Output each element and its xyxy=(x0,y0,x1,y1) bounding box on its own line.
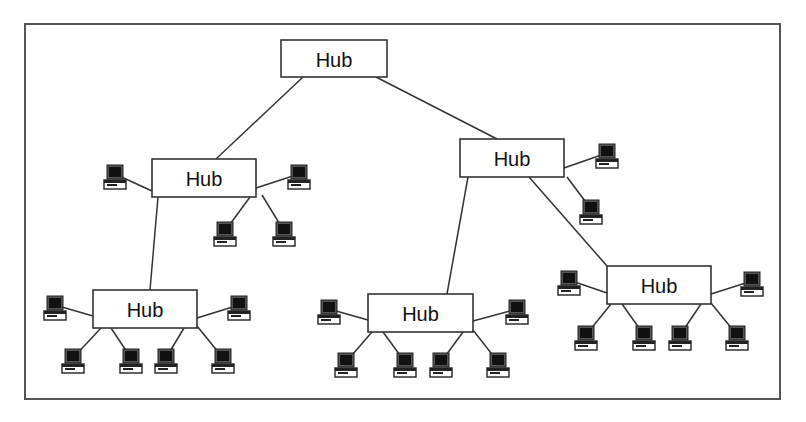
computer-icon xyxy=(394,353,416,377)
hub-link-left-to-left-bottom xyxy=(150,197,158,290)
network-diagram: HubHubHubHubHubHub xyxy=(0,0,806,422)
hub-label: Hub xyxy=(402,303,439,325)
computer-icon xyxy=(212,349,234,373)
hubs-layer: HubHubHubHubHubHub xyxy=(93,40,711,332)
hub-label: Hub xyxy=(127,299,164,321)
computer-icon xyxy=(596,144,618,168)
computer-icon xyxy=(62,349,84,373)
computer-icon xyxy=(669,326,691,350)
hub-right: Hub xyxy=(460,139,564,177)
hub-label: Hub xyxy=(186,168,223,190)
computer-icon xyxy=(487,353,509,377)
hub-root: Hub xyxy=(281,40,387,77)
computer-icon xyxy=(104,165,126,189)
computer-icon xyxy=(633,326,655,350)
computer-icon xyxy=(430,353,452,377)
hub-left: Hub xyxy=(152,159,256,197)
hub-label: Hub xyxy=(316,49,353,71)
computer-icon xyxy=(214,222,236,246)
hub-right-bottom-left: Hub xyxy=(368,294,473,332)
computer-icon xyxy=(741,272,763,296)
hub-link-root-to-left xyxy=(216,77,303,159)
computer-icon xyxy=(318,300,340,324)
computer-icon xyxy=(558,271,580,295)
computer-icon xyxy=(44,296,66,320)
computer-icon xyxy=(335,353,357,377)
hub-link-root-to-right xyxy=(376,77,497,139)
hub-label: Hub xyxy=(494,148,531,170)
hub-link-right-to-right-bottom-left xyxy=(447,177,468,294)
computer-icon xyxy=(726,326,748,350)
hub-left-bottom: Hub xyxy=(93,290,197,328)
computer-icon xyxy=(273,222,295,246)
computer-icon xyxy=(120,349,142,373)
hub-right-bottom-right: Hub xyxy=(607,266,711,304)
computer-icon xyxy=(288,165,310,189)
hub-label: Hub xyxy=(641,275,678,297)
computer-icon xyxy=(228,296,250,320)
computer-icon xyxy=(506,300,528,324)
computer-icon xyxy=(155,349,177,373)
computer-icon xyxy=(575,326,597,350)
computer-icon xyxy=(580,200,602,224)
